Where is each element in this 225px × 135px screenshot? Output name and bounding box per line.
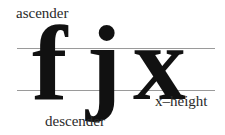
- glyph-j: j: [86, 11, 121, 117]
- glyph-f: f: [32, 11, 67, 117]
- descender-label: descender: [45, 114, 105, 129]
- ascender-label: ascender: [16, 6, 68, 21]
- x-height-label: x–height: [155, 94, 208, 109]
